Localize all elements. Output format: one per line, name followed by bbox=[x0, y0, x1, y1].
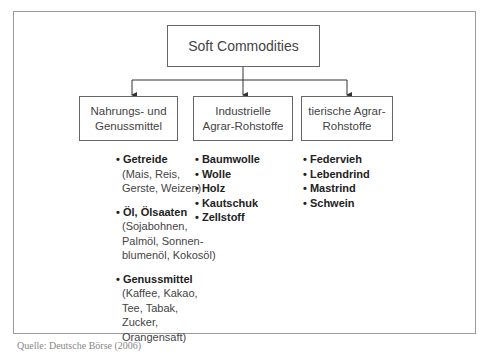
item-label: Federvieh bbox=[310, 153, 362, 165]
group-line: Zucker, bbox=[116, 315, 216, 330]
bullet-icon: • bbox=[303, 182, 307, 194]
list-item: • Mastrind bbox=[303, 181, 370, 196]
group-line: blumenöl, Kokosöl) bbox=[116, 248, 216, 263]
group-head: Getreide bbox=[123, 153, 168, 165]
item-label: Holz bbox=[202, 182, 225, 194]
root-label: Soft Commodities bbox=[188, 38, 298, 54]
group-head: Genussmittel bbox=[123, 273, 193, 285]
source-caption: Quelle: Deutsche Börse (2006) bbox=[17, 340, 141, 351]
list-item: • Wolle bbox=[195, 167, 260, 182]
bullet-icon: • bbox=[303, 153, 307, 165]
category-label-line2: Rohstoffe bbox=[308, 119, 385, 134]
group-head: Öl, Ölsaaten bbox=[123, 206, 187, 218]
item-label: Baumwolle bbox=[202, 153, 260, 165]
bullet-icon: • bbox=[116, 153, 120, 165]
bullet-icon: • bbox=[195, 153, 199, 165]
list-item: • Zellstoff bbox=[195, 210, 260, 225]
item-label: Schwein bbox=[310, 197, 355, 209]
category-tierische-agrar-rohstoffe: tierische Agrar- Rohstoffe bbox=[301, 96, 393, 141]
category-label-line1: tierische Agrar- bbox=[308, 104, 385, 119]
category-label-line1: Industrielle bbox=[203, 104, 284, 119]
list-item: • Federvieh bbox=[303, 152, 370, 167]
item-label: Wolle bbox=[202, 168, 231, 180]
bullet-icon: • bbox=[116, 273, 120, 285]
group-genussmittel: • Genussmittel (Kaffee, Kakao, Tee, Taba… bbox=[116, 272, 216, 345]
category-label-line2: Genussmittel bbox=[90, 119, 166, 134]
bullet-icon: • bbox=[195, 211, 199, 223]
bullet-icon: • bbox=[195, 197, 199, 209]
bullet-icon: • bbox=[116, 206, 120, 218]
bullet-icon: • bbox=[195, 182, 199, 194]
category-label-line1: Nahrungs- und bbox=[90, 104, 166, 119]
category-nahrungs-genussmittel: Nahrungs- und Genussmittel bbox=[79, 96, 178, 141]
item-label: Lebendrind bbox=[310, 168, 370, 180]
list-item: • Kautschuk bbox=[195, 196, 260, 211]
list-item: • Schwein bbox=[303, 196, 370, 211]
list-item: • Lebendrind bbox=[303, 167, 370, 182]
bullet-icon: • bbox=[303, 197, 307, 209]
group-line: Palmöl, Sonnen- bbox=[116, 234, 216, 249]
list-item: • Holz bbox=[195, 181, 260, 196]
group-line: Tee, Tabak, bbox=[116, 301, 216, 316]
bullet-icon: • bbox=[303, 168, 307, 180]
list-tierische-agrar-rohstoffe: • Federvieh • Lebendrind • Mastrind • Sc… bbox=[303, 152, 370, 210]
item-label: Mastrind bbox=[310, 182, 356, 194]
group-line: (Kaffee, Kakao, bbox=[116, 286, 216, 301]
root-node-soft-commodities: Soft Commodities bbox=[167, 25, 320, 67]
category-industrielle-agrar-rohstoffe: Industrielle Agrar-Rohstoffe bbox=[193, 96, 293, 141]
list-industrielle-agrar-rohstoffe: • Baumwolle • Wolle • Holz • Kautschuk •… bbox=[195, 152, 260, 225]
category-label-line2: Agrar-Rohstoffe bbox=[203, 119, 284, 134]
list-item: • Baumwolle bbox=[195, 152, 260, 167]
item-label: Zellstoff bbox=[202, 211, 245, 223]
bullet-icon: • bbox=[195, 168, 199, 180]
item-label: Kautschuk bbox=[202, 197, 258, 209]
